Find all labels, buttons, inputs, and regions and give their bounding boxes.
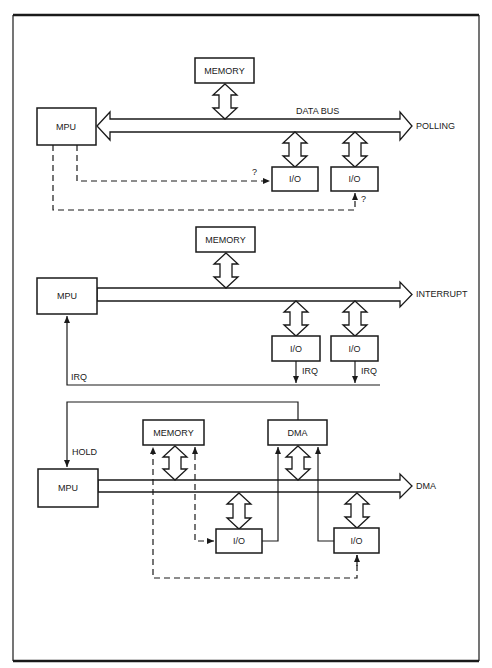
dma-bus-link-arrow <box>286 446 310 480</box>
io2-bus-arrow <box>345 493 369 528</box>
io2-label: I/O <box>350 536 362 546</box>
memory-bus-arrow <box>213 84 237 119</box>
data-bus-arrow <box>97 112 412 140</box>
mpu-irq-label: IRQ <box>71 372 87 382</box>
io2-label: I/O <box>348 344 360 354</box>
io2-bus-arrow <box>343 301 367 336</box>
io2-label: I/O <box>348 174 360 184</box>
memory-bus-arrow <box>214 253 238 288</box>
dma-controller-label: DMA <box>288 428 308 438</box>
memory-bus-arrow <box>163 446 187 480</box>
panel-polling: DATA BUS POLLING MPU MEMORY I/O I/O ? ? <box>37 58 455 210</box>
polling-mode-label: POLLING <box>416 121 455 131</box>
poll-query-io1: ? <box>252 167 257 177</box>
io-methods-diagram: DATA BUS POLLING MPU MEMORY I/O I/O ? ? … <box>0 0 492 668</box>
poll-query-io2: ? <box>361 194 366 204</box>
io1-bus-arrow <box>283 132 307 167</box>
io1-bus-arrow <box>284 301 308 336</box>
poll-line-io1 <box>77 145 270 181</box>
data-bus-label: DATA BUS <box>296 106 339 116</box>
memory-label: MEMORY <box>205 235 245 245</box>
io1-dma-request-line <box>262 447 278 541</box>
io2-memory-path <box>153 447 357 578</box>
io2-bus-arrow <box>343 132 367 167</box>
memory-label: MEMORY <box>204 66 244 76</box>
interrupt-mode-label: INTERRUPT <box>416 289 468 299</box>
io1-label: I/O <box>290 344 302 354</box>
io1-memory-path <box>195 447 214 541</box>
io1-label: I/O <box>289 174 301 184</box>
io1-memory-path-arrow <box>195 500 214 541</box>
io1-label: I/O <box>233 536 245 546</box>
dma-mode-label: DMA <box>416 481 436 491</box>
panel-interrupt: INTERRUPT MPU MEMORY I/O I/O IRQ IRQ IRQ <box>37 227 468 385</box>
io1-irq-label: IRQ <box>302 366 318 376</box>
io2-irq-label: IRQ <box>361 366 377 376</box>
hold-label: HOLD <box>72 447 98 457</box>
mpu-label: MPU <box>57 291 77 301</box>
mpu-label: MPU <box>58 483 78 493</box>
memory-label: MEMORY <box>153 428 193 438</box>
io1-bus-arrow <box>227 493 251 529</box>
interrupt-bus-arrow <box>97 282 412 307</box>
mpu-label: MPU <box>56 122 76 132</box>
io2-dma-request-line <box>318 447 334 541</box>
panel-dma: DMA HOLD MPU MEMORY DMA I/O I/O <box>38 402 436 578</box>
dma-bus-arrow <box>98 474 412 498</box>
